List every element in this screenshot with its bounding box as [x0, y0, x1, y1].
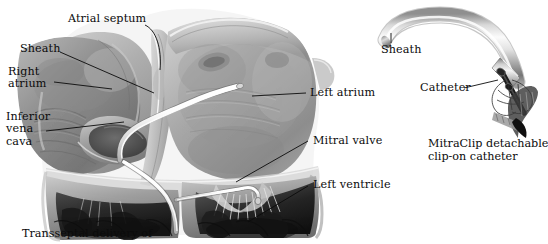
label-right-atrium: Right atrium — [8, 66, 47, 91]
mitraclip-caption: MitraClip detachable clip-on catheter — [428, 138, 548, 163]
label-sheath-heart: Sheath — [20, 43, 60, 55]
label-left-atrium: Left atrium — [310, 87, 375, 99]
label-sheath-device: Sheath — [381, 44, 421, 56]
label-mitral-valve: Mitral valve — [313, 135, 382, 147]
label-catheter: Catheter — [420, 82, 471, 94]
figure-caption: Transseptal delivery of — [22, 228, 152, 241]
label-inferior-vena-cava: Inferior vena cava — [6, 111, 50, 148]
label-atrial-septum: Atrial septum — [68, 13, 146, 25]
heart-cutaway-group — [17, 9, 334, 242]
label-left-ventricle: Left ventricle — [313, 179, 391, 191]
